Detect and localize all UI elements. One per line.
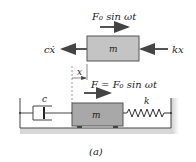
applied-force-label-top: F₀ sin ωt xyxy=(91,11,137,22)
mass-label-fbd: m xyxy=(109,44,118,54)
damper xyxy=(19,106,73,120)
system-diagram: x F = F₀ sin ωt c m k xyxy=(19,64,179,134)
damping-force-label: cẋ xyxy=(44,44,56,55)
diagram-canvas: F₀ sin ωt m cẋ kx x F = F₀ sin ωt xyxy=(0,0,196,162)
displacement-label: x xyxy=(77,67,82,77)
damper-label: c xyxy=(42,94,47,104)
applied-force-label: F = F₀ sin ωt xyxy=(90,79,158,90)
spring-label: k xyxy=(144,96,149,106)
wheel-right xyxy=(113,126,118,128)
figure-caption: (a) xyxy=(89,146,103,157)
right-wall-shade xyxy=(171,98,179,134)
mass-label: m xyxy=(92,110,101,120)
spring xyxy=(123,109,171,117)
wheel-left xyxy=(77,126,82,128)
ground-shade xyxy=(20,128,171,134)
free-body-diagram: F₀ sin ωt m cẋ kx xyxy=(44,11,184,61)
spring-force-label: kx xyxy=(172,44,184,55)
